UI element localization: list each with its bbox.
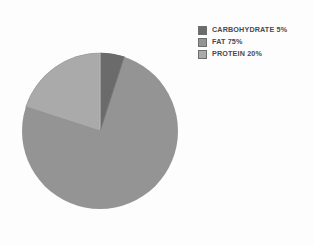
legend-label-carbohydrate: CARBOHYDRATE 5%: [212, 24, 287, 36]
legend-swatch-protein-icon: [198, 50, 207, 59]
legend-label-fat: FAT 75%: [212, 36, 242, 48]
legend-swatch-carbohydrate-icon: [198, 26, 207, 35]
pie-slices-svg: [21, 52, 179, 210]
legend: CARBOHYDRATE 5% FAT 75% PROTEIN 20%: [198, 24, 310, 60]
legend-item-fat[interactable]: FAT 75%: [198, 36, 310, 48]
legend-label-protein: PROTEIN 20%: [212, 48, 262, 60]
legend-item-protein[interactable]: PROTEIN 20%: [198, 48, 310, 60]
legend-swatch-fat-icon: [198, 38, 207, 47]
pie-chart-graphic[interactable]: [21, 52, 179, 210]
pie-chart-figure: CARBOHYDRATE 5% FAT 75% PROTEIN 20%: [0, 0, 314, 245]
legend-item-carbohydrate[interactable]: CARBOHYDRATE 5%: [198, 24, 310, 36]
